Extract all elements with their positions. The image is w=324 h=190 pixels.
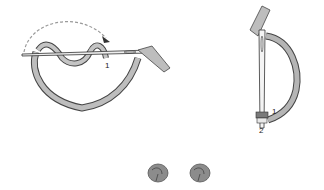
knot-2 (190, 164, 210, 182)
finished-knots (148, 164, 210, 182)
ribbon-tail (138, 46, 170, 72)
ribbon-arc (266, 36, 297, 120)
arrowhead-icon (102, 36, 110, 43)
left-step-illustration (22, 22, 170, 108)
ribbon-wrap (256, 112, 268, 118)
right-step-label-2: 2 (259, 127, 263, 135)
sewing-diagram (0, 0, 324, 190)
left-step-label-1: 1 (105, 62, 109, 70)
knot-1 (148, 164, 168, 182)
right-step-label-1: 1 (272, 108, 276, 116)
